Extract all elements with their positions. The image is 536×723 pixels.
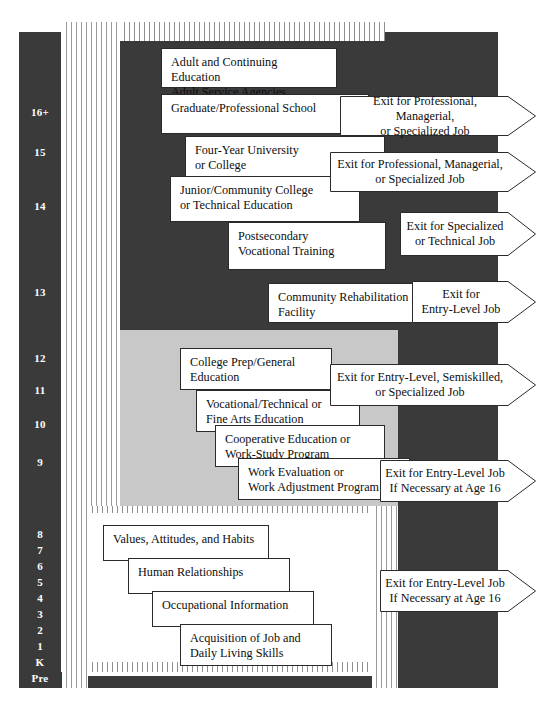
arrow-exit-specialized-technical[interactable]: Exit for Specialized or Technical Job [400,212,536,256]
stripe-field-left-lower [62,506,88,688]
box-college-prep-general-education[interactable]: College Prep/General Education [180,348,332,390]
stripe-field-left-upper [62,22,120,506]
arrow-exit-entry-level-age16-secondary[interactable]: Exit for Entry-Level Job If Necessary at… [380,460,536,502]
arrow-exit-professional-managerial-2[interactable]: Exit for Professional, Managerial, or Sp… [330,152,536,192]
stripe-field-secondary-top [88,506,398,513]
grade-label-5: 5 [19,577,61,588]
box-adult-continuing-education[interactable]: Adult and Continuing Education Adult Ser… [161,48,337,88]
grade-label-15: 15 [19,147,61,158]
arrow-label: Exit for Professional, Managerial, or Sp… [330,157,506,187]
grade-label-13: 13 [19,287,61,298]
box-graduate-professional-school[interactable]: Graduate/Professional School [161,94,369,134]
box-human-relationships[interactable]: Human Relationships [128,558,290,594]
grade-label-7: 7 [19,545,61,556]
grade-label-12: 12 [19,353,61,364]
arrow-label: Exit for Specialized or Technical Job [400,219,506,249]
grade-label-k: K [19,657,61,668]
box-occupational-information[interactable]: Occupational Information [152,591,314,627]
arrow-label: Exit for Professional, Managerial, or Sp… [340,94,506,139]
arrow-exit-entry-level-age16-elementary[interactable]: Exit for Entry-Level Job If Necessary at… [380,570,536,612]
grade-label-6: 6 [19,561,61,572]
arrow-label: Exit for Entry-Level Job If Necessary at… [380,576,506,606]
box-acquisition-job-daily-living[interactable]: Acquisition of Job and Daily Living Skil… [180,624,332,666]
grade-label-1: 1 [19,641,61,652]
grade-label-16plus: 16+ [19,107,61,118]
box-values-attitudes-habits[interactable]: Values, Attitudes, and Habits [103,525,269,561]
box-postsecondary-vocational-training[interactable]: Postsecondary Vocational Training [228,222,386,270]
grade-label-10: 10 [19,419,61,430]
grade-label-pre: Pre [19,673,61,684]
arrow-label: Exit for Entry-Level Job [412,287,506,317]
diagram-canvas: 16+151413121110987654321KPre Adult and C… [0,0,536,723]
grade-label-9: 9 [19,457,61,468]
stripe-field-top [120,22,385,41]
arrow-exit-entry-level-rehab[interactable]: Exit for Entry-Level Job [412,281,536,323]
arrow-label: Exit for Entry-Level, Semiskilled, or Sp… [330,370,506,400]
arrow-exit-professional-managerial-1[interactable]: Exit for Professional, Managerial, or Sp… [340,96,536,136]
grade-label-8: 8 [19,529,61,540]
grade-label-3: 3 [19,609,61,620]
box-community-rehabilitation-facility[interactable]: Community Rehabilitation Facility [268,283,426,323]
grade-label-14: 14 [19,201,61,212]
grade-label-4: 4 [19,593,61,604]
grade-label-2: 2 [19,625,61,636]
arrow-exit-entry-level-semiskilled[interactable]: Exit for Entry-Level, Semiskilled, or Sp… [330,364,536,406]
arrow-label: Exit for Entry-Level Job If Necessary at… [380,466,506,496]
grade-label-11: 11 [19,385,61,396]
grade-level-scale: 16+151413121110987654321KPre [19,32,61,688]
